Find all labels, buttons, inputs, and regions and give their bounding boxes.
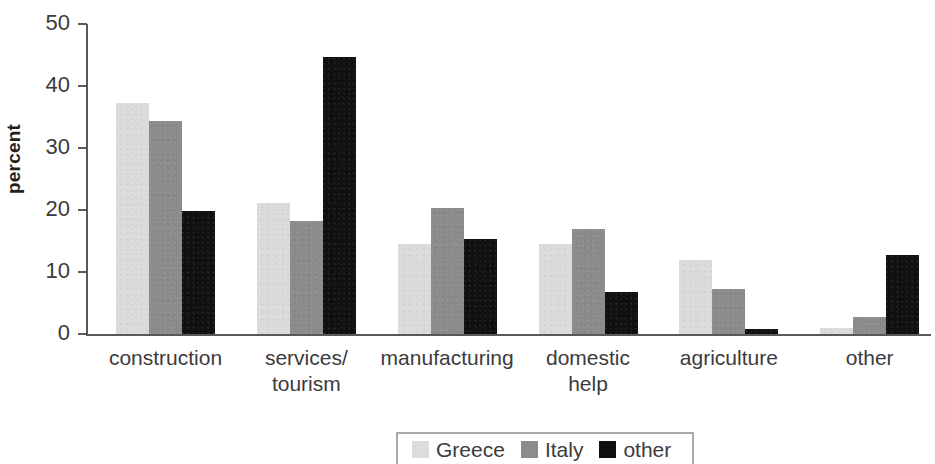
bar-other-domestic-help [605, 292, 638, 334]
bar-group [679, 24, 778, 334]
bar-group [116, 24, 215, 334]
y-axis-tick-label: 10 [14, 260, 70, 282]
bar-greece-other [820, 328, 853, 334]
bar-italy-other [853, 317, 886, 334]
chart-legend: GreeceItalyother [396, 432, 694, 464]
y-axis-tick-label: 0 [14, 322, 70, 344]
legend-swatch-icon [412, 441, 429, 458]
legend-swatch-icon [599, 441, 616, 458]
bar-other-other [886, 255, 919, 334]
bar-italy-manufacturing [431, 208, 464, 334]
bar-greece-services-tourism [257, 203, 290, 334]
bar-italy-agriculture [712, 289, 745, 334]
legend-label: Greece [436, 439, 505, 460]
y-axis-tick-label: 40 [14, 74, 70, 96]
legend-item-italy: Italy [521, 439, 591, 460]
plot-area [86, 24, 931, 334]
bar-group [257, 24, 356, 334]
bar-group [820, 24, 919, 334]
bar-greece-construction [116, 103, 149, 334]
y-axis-tick-label: 30 [14, 136, 70, 158]
bar-italy-construction [149, 121, 182, 334]
legend-swatch-icon [521, 441, 538, 458]
y-axis-tick-label: 20 [14, 198, 70, 220]
bar-group [398, 24, 497, 334]
bar-chart: percent 01020304050 constructionservices… [0, 0, 935, 464]
y-axis-title: percent [3, 119, 25, 199]
bar-greece-manufacturing [398, 244, 431, 334]
bar-greece-agriculture [679, 260, 712, 334]
legend-item-greece: Greece [412, 439, 512, 460]
bar-italy-services-tourism [290, 221, 323, 334]
legend-label: Italy [545, 439, 584, 460]
bar-greece-domestic-help [539, 244, 572, 334]
bar-other-agriculture [745, 329, 778, 334]
y-axis-tick-label: 50 [14, 12, 70, 34]
legend-item-other: other [599, 439, 678, 460]
legend-label: other [623, 439, 671, 460]
x-axis-line [86, 334, 931, 336]
bar-other-services-tourism [323, 57, 356, 334]
bar-group [539, 24, 638, 334]
x-axis-label: other [780, 345, 935, 371]
bar-italy-domestic-help [572, 229, 605, 334]
bar-other-construction [182, 211, 215, 334]
bar-other-manufacturing [464, 239, 497, 334]
